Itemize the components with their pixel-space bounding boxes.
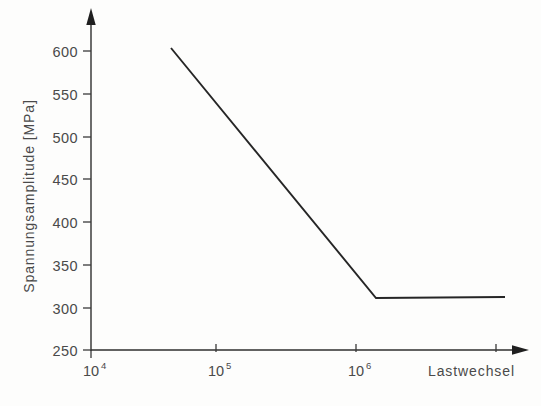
y-tick-label-300: 300	[53, 301, 78, 317]
x-axis-title: Lastwechsel	[428, 363, 515, 379]
x-tick-marks	[91, 344, 496, 358]
x-tick-base-1e6: 10	[348, 363, 364, 379]
woehler-data-line	[171, 48, 505, 298]
x-tick-labels: 10 4 10 5 10 6	[83, 360, 371, 379]
y-tick-label-550: 550	[53, 87, 78, 103]
y-tick-label-350: 350	[53, 258, 78, 274]
y-tick-labels: 600 550 500 450 400 350 300 250	[53, 44, 78, 359]
x-tick-base-1e4: 10	[83, 363, 99, 379]
y-tick-label-450: 450	[53, 172, 78, 188]
x-tick-base-1e5: 10	[208, 363, 224, 379]
x-axis-group	[91, 345, 529, 354]
y-tick-label-500: 500	[53, 130, 78, 146]
y-axis-arrow-icon	[86, 8, 95, 25]
x-tick-exponent-1e5: 5	[226, 360, 231, 371]
chart-figure: 600 550 500 450 400 350 300 250 10 4 10 …	[0, 0, 541, 406]
y-tick-label-600: 600	[53, 44, 78, 60]
x-tick-label-1e6: 10 6	[348, 360, 371, 379]
y-tick-label-400: 400	[53, 215, 78, 231]
x-tick-exponent-1e4: 4	[101, 360, 106, 371]
x-tick-label-1e5: 10 5	[208, 360, 231, 379]
x-axis-arrow-icon	[512, 345, 529, 354]
y-tick-label-250: 250	[53, 343, 78, 359]
woehler-curve-chart: 600 550 500 450 400 350 300 250 10 4 10 …	[0, 0, 541, 406]
y-axis-title: Spannungsamplitude [MPa]	[21, 99, 37, 293]
x-tick-label-1e4: 10 4	[83, 360, 106, 379]
x-tick-exponent-1e6: 6	[366, 360, 371, 371]
y-tick-marks	[83, 51, 91, 350]
